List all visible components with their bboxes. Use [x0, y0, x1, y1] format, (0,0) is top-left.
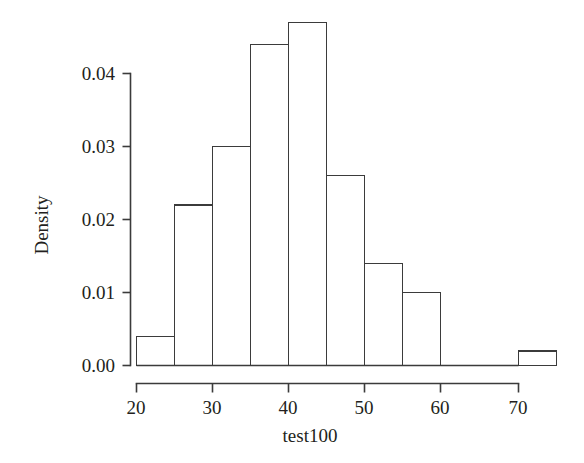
x-tick-label-0: 20 — [127, 397, 146, 418]
bar-35-40 — [251, 44, 289, 365]
x-axis-title: test100 — [283, 425, 338, 446]
bar-30-35 — [213, 147, 251, 366]
y-tick-label-1: 0.01 — [82, 282, 115, 303]
bar-20-25 — [137, 336, 175, 365]
chart-canvas: 0.00 0.01 0.02 0.03 0.04 Density 20 30 4… — [0, 0, 584, 463]
bar-40-45 — [289, 22, 327, 365]
y-tick-label-4: 0.04 — [82, 63, 116, 84]
bar-55-60 — [403, 293, 441, 366]
x-tick-label-2: 40 — [279, 397, 298, 418]
bar-50-55 — [365, 263, 403, 365]
y-axis-title: Density — [31, 195, 52, 255]
x-tick-label-4: 60 — [431, 397, 450, 418]
y-tick-label-0: 0.00 — [82, 355, 115, 376]
y-tick-label-3: 0.03 — [82, 136, 115, 157]
x-tick-label-1: 30 — [203, 397, 222, 418]
bar-25-30 — [175, 205, 213, 366]
x-tick-label-5: 70 — [509, 397, 528, 418]
y-tick-label-2: 0.02 — [82, 209, 115, 230]
x-tick-label-3: 50 — [355, 397, 374, 418]
bar-45-50 — [327, 176, 365, 366]
histogram-figure: 0.00 0.01 0.02 0.03 0.04 Density 20 30 4… — [0, 0, 584, 463]
bar-70-75 — [519, 351, 557, 366]
